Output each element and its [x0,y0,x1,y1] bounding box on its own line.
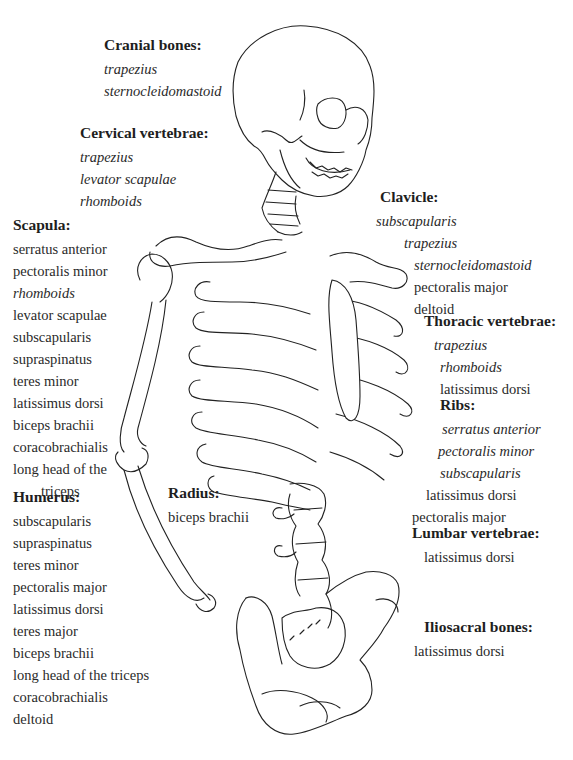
cervical-spine [262,172,302,235]
label-title: Lumbar vertebrae: [412,522,540,544]
muscle-item: rhomboids [13,282,108,304]
muscle-item: trapezius [104,58,222,80]
skull [233,26,374,197]
label-title: Humerus: [13,486,149,508]
muscle-item: latissimus dorsi [412,484,541,506]
muscle-item: pectoralis major [376,276,532,298]
label-title: Cranial bones: [104,34,222,56]
label-title: Radius: [168,482,249,504]
label-title: Clavicle: [376,186,532,208]
muscle-item: biceps brachii [168,506,249,528]
label-title: Scapula: [13,214,108,236]
label-title: Ribs: [412,394,541,416]
muscle-item: latissimus dorsi [13,392,108,414]
muscle-item: subscapularis [376,210,532,232]
label-title: Cervical vertebrae: [80,122,209,144]
label-title: Iliosacral bones: [414,616,533,638]
muscle-item: supraspinatus [13,532,149,554]
label-cranial-bones: Cranial bones: trapezius sternocleidomas… [104,34,222,102]
muscle-item: biceps brachii [13,642,149,664]
muscle-item: trapezius [424,334,556,356]
muscle-item: serratus anterior [13,238,108,260]
shoulder-girdle [138,237,407,302]
label-cervical-vertebrae: Cervical vertebrae: trapezius levator sc… [80,122,209,212]
label-thoracic-vertebrae: Thoracic vertebrae: trapezius rhomboids … [424,310,556,400]
muscle-item: long head of the triceps [13,664,149,686]
muscle-item: rhomboids [80,190,209,212]
muscle-item: biceps brachii [13,414,108,436]
label-radius: Radius: biceps brachii [168,482,249,528]
muscle-item: coracobrachialis [13,686,149,708]
muscle-item: pectoralis major [13,576,149,598]
label-ribs: Ribs: serratus anterior pectoralis minor… [412,394,541,528]
muscle-item: sternocleidomastoid [104,80,222,102]
pelvis [237,572,399,735]
muscle-item: subscapularis [13,510,149,532]
muscle-item: supraspinatus [13,348,108,370]
label-lumbar-vertebrae: Lumbar vertebrae: latissimus dorsi [412,522,540,568]
muscle-item: rhomboids [424,356,556,378]
muscle-item: latissimus dorsi [412,546,540,568]
label-clavicle: Clavicle: subscapularis trapezius sterno… [376,186,532,320]
muscle-item: teres minor [13,554,149,576]
label-humerus: Humerus: subscapularis supraspinatus ter… [13,486,149,730]
muscle-item: levator scapulae [80,168,209,190]
muscle-item: long head of the [13,458,108,480]
label-title: Thoracic vertebrae: [424,310,556,332]
muscle-item: trapezius [80,146,209,168]
muscle-item: coracobrachialis [13,436,108,458]
label-iliosacral-bones: Iliosacral bones: latissimus dorsi [414,616,533,662]
label-scapula: Scapula: serratus anterior pectoralis mi… [13,214,108,502]
muscle-item: deltoid [13,708,149,730]
muscle-item: sternocleidomastoid [376,254,532,276]
muscle-item: teres major [13,620,149,642]
muscle-item: pectoralis minor [412,440,541,462]
muscle-item: serratus anterior [412,418,541,440]
muscle-item: latissimus dorsi [13,598,149,620]
muscle-item: latissimus dorsi [414,640,533,662]
muscle-item: teres minor [13,370,108,392]
muscle-item: trapezius [376,232,532,254]
lumbar-spine [273,483,332,628]
muscle-item: levator scapulae [13,304,108,326]
muscle-item: subscapularis [13,326,108,348]
muscle-item: subscapularis [412,462,541,484]
muscle-item: pectoralis minor [13,260,108,282]
